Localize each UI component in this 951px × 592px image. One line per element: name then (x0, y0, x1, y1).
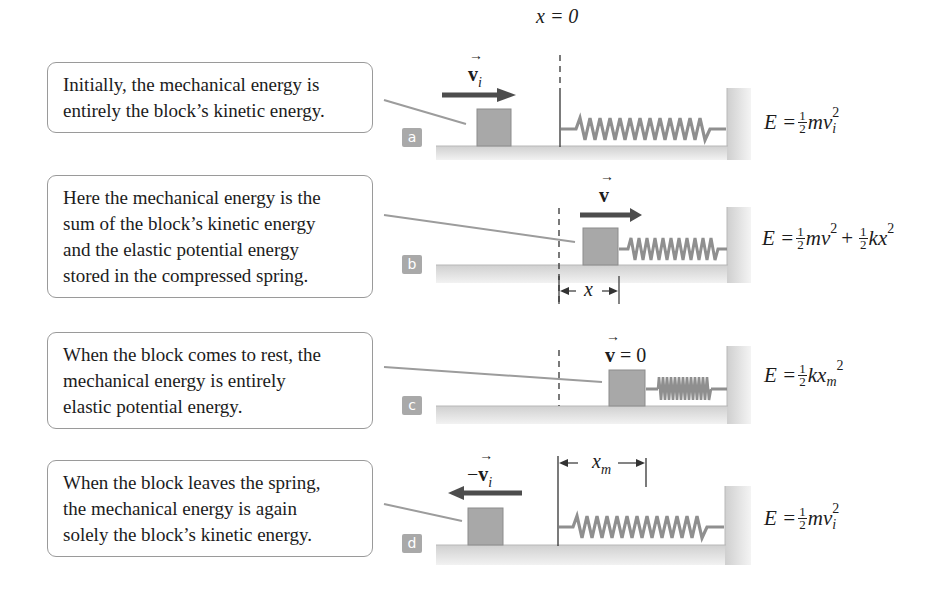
callout-c: When the block comes to rest, the mechan… (47, 332, 373, 429)
vector-symbol: v (468, 63, 478, 85)
velocity-label-c: v = 0 (605, 344, 646, 367)
eq-lhs: E = (764, 110, 796, 135)
fraction: 12 (798, 363, 807, 388)
fraction: 12 (859, 226, 868, 251)
equation-c: E = 12 kxm2 (764, 363, 844, 388)
floor (436, 146, 728, 160)
panel-a-graphic (384, 55, 751, 160)
callout-b: Here the mechanical energy is the sum of… (47, 175, 373, 298)
callout-line: mechanical energy is entirely (63, 368, 358, 394)
callout-line: sum of the block’s kinetic energy (63, 211, 358, 237)
wall (727, 346, 751, 424)
subscript: i (478, 75, 482, 90)
callout-line: entirely the block’s kinetic energy. (63, 98, 358, 124)
panel-badge-d: d (402, 534, 422, 553)
fraction: 12 (798, 110, 807, 135)
leader-line (384, 367, 602, 382)
fraction: 12 (798, 506, 807, 531)
vector-symbol: v (605, 344, 615, 366)
callout-line: solely the block’s kinetic energy. (63, 522, 358, 548)
equation-d: E = 12 mvi2 (764, 506, 839, 531)
dimension-label-xm: xm (592, 450, 611, 473)
wall (725, 486, 751, 565)
block (468, 508, 503, 545)
floor (436, 265, 728, 283)
callout-line: stored in the compressed spring. (63, 263, 358, 289)
panel-badge-b: b (402, 255, 422, 274)
floor (436, 545, 728, 565)
callout-line: When the block comes to rest, the (63, 342, 358, 368)
panel-badge-a: a (402, 128, 422, 147)
dimension-label-x: x (584, 278, 593, 301)
velocity-label-b: v (599, 184, 609, 207)
panel-d-graphic (384, 456, 751, 565)
callout-line: and the elastic potential energy (63, 237, 358, 263)
equation-b: E = 12 mv2 + 12 kx2 (762, 226, 894, 251)
leader-line (384, 504, 462, 521)
callout-line: Initially, the mechanical energy is (63, 72, 358, 98)
block (477, 109, 511, 146)
callout-line: the mechanical energy is again (63, 496, 358, 522)
vector-symbol: v (478, 463, 488, 485)
block (609, 370, 645, 406)
callout-line: elastic potential energy. (63, 394, 358, 420)
callout-d: When the block leaves the spring, the me… (47, 460, 373, 557)
velocity-label-a: vi (468, 63, 482, 86)
origin-label: x = 0 (536, 5, 578, 28)
velocity-label-d: −vi (467, 463, 492, 486)
spring (619, 238, 727, 260)
spring (559, 516, 724, 538)
floor (436, 406, 728, 424)
panel-c-graphic (384, 346, 751, 424)
block (583, 228, 618, 265)
callout-line: Here the mechanical energy is the (63, 185, 358, 211)
vector-symbol: v (599, 184, 609, 206)
leader-line (384, 100, 466, 124)
panel-badge-c: c (402, 396, 422, 415)
wall (727, 207, 751, 283)
fraction: 12 (796, 226, 805, 251)
equation-a: E = 12 mvi2 (764, 110, 839, 135)
spring (658, 377, 711, 400)
leader-line (384, 215, 575, 242)
spring (561, 118, 726, 140)
callout-line: When the block leaves the spring, (63, 470, 358, 496)
panel-b-graphic (384, 207, 751, 304)
callout-a: Initially, the mechanical energy is enti… (47, 62, 373, 133)
wall (727, 88, 751, 160)
